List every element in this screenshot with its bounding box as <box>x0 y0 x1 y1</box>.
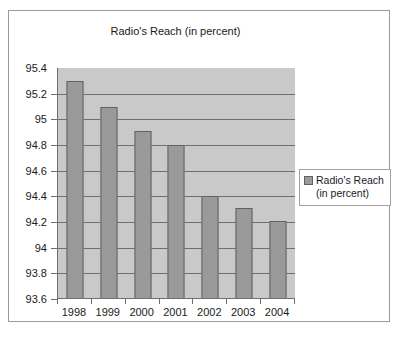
x-axis-tick-label: 2000 <box>125 306 159 318</box>
x-axis-tick-label: 2001 <box>159 306 193 318</box>
chart-legend: Radio's Reach (in percent) <box>299 169 391 206</box>
y-axis-tick-label: 95.4 <box>26 62 47 74</box>
x-axis-tick-mark <box>91 299 92 304</box>
x-axis-tick-mark <box>159 299 160 304</box>
bar-slot <box>58 68 92 299</box>
bar-slot <box>227 68 261 299</box>
x-axis-tick-label: 1998 <box>57 306 91 318</box>
bar-2000[interactable] <box>134 131 151 299</box>
chart-frame: Radio's Reach (in percent) 95.495.29594.… <box>8 10 390 322</box>
bar-1998[interactable] <box>66 81 83 299</box>
bar-slot <box>261 68 295 299</box>
y-axis-tick-label: 94.6 <box>26 165 47 177</box>
bar-2002[interactable] <box>202 196 219 299</box>
x-axis-tick-mark <box>226 299 227 304</box>
bar-series <box>58 68 295 299</box>
y-axis-tick-label: 95 <box>35 113 47 125</box>
x-axis-tick-mark <box>57 299 58 304</box>
y-axis-tick-label: 94.8 <box>26 139 47 151</box>
legend-item-label: Radio's Reach (in percent) <box>316 174 386 200</box>
x-axis-tick-mark <box>294 299 295 304</box>
bar-slot <box>193 68 227 299</box>
x-axis-tick-label: 1999 <box>91 306 125 318</box>
x-axis-tick-mark <box>125 299 126 304</box>
bar-2003[interactable] <box>236 208 253 299</box>
series-color-swatch <box>304 176 313 185</box>
y-axis-tick-label: 93.8 <box>26 267 47 279</box>
x-axis: 1998199920002001200220032004 <box>57 299 294 325</box>
chart-title: Radio's Reach (in percent) <box>57 25 294 37</box>
x-axis-tick-label: 2003 <box>226 306 260 318</box>
bar-1999[interactable] <box>100 107 117 300</box>
x-axis-tick-mark <box>192 299 193 304</box>
bar-slot <box>160 68 194 299</box>
y-axis-tick-label: 93.6 <box>26 293 47 305</box>
y-axis-tick-label: 94.4 <box>26 190 47 202</box>
x-axis-tick-mark <box>260 299 261 304</box>
plot-area <box>57 68 295 299</box>
x-axis-tick-label: 2002 <box>192 306 226 318</box>
y-axis-tick-label: 94.2 <box>26 216 47 228</box>
y-axis-tick-label: 95.2 <box>26 88 47 100</box>
y-axis: 95.495.29594.894.694.494.29493.893.6 <box>9 61 57 306</box>
bar-2001[interactable] <box>168 145 185 299</box>
x-axis-tick-label: 2004 <box>260 306 294 318</box>
bar-2004[interactable] <box>270 221 287 299</box>
bar-slot <box>126 68 160 299</box>
y-axis-tick-label: 94 <box>35 242 47 254</box>
bar-slot <box>92 68 126 299</box>
